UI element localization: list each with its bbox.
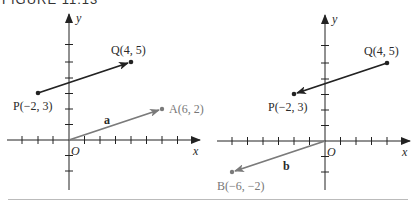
point-b [230, 170, 234, 174]
point-p [36, 91, 41, 96]
left-origin-label: O [71, 144, 80, 158]
left-panel: y x O Q(4, 5) P(−2, 3) A(6, 2) a [7, 11, 204, 190]
right-origin-label: O [327, 145, 336, 159]
left-q-label: Q(4, 5) [111, 43, 146, 57]
bottom-rule [8, 199, 408, 200]
right-y-axis-label: y [331, 12, 338, 26]
right-p-label: P(−2, 3) [268, 100, 307, 114]
right-vector-b-label: b [283, 159, 290, 173]
vector-pq [38, 63, 128, 93]
figure-canvas: y x O Q(4, 5) P(−2, 3) A(6, 2) a [0, 0, 413, 202]
left-x-axis-label: x [192, 144, 199, 158]
vector-a [69, 110, 159, 140]
left-a-point-label: A(6, 2) [169, 102, 204, 116]
point-q [129, 60, 134, 65]
vector-qp [297, 63, 387, 93]
point-q-right [385, 61, 390, 66]
left-p-label: P(−2, 3) [13, 99, 52, 113]
vector-b [235, 141, 325, 171]
left-vector-a-label: a [104, 113, 110, 127]
point-a [160, 107, 164, 111]
point-p-right [292, 92, 297, 97]
left-y-axis-label: y [75, 11, 82, 25]
right-panel: y x O Q(4, 5) P(−2, 3) B(−6, −2) b [217, 12, 410, 193]
right-x-axis-label: x [401, 145, 408, 159]
right-q-label: Q(4, 5) [364, 44, 399, 58]
right-b-point-label: B(−6, −2) [217, 179, 265, 193]
